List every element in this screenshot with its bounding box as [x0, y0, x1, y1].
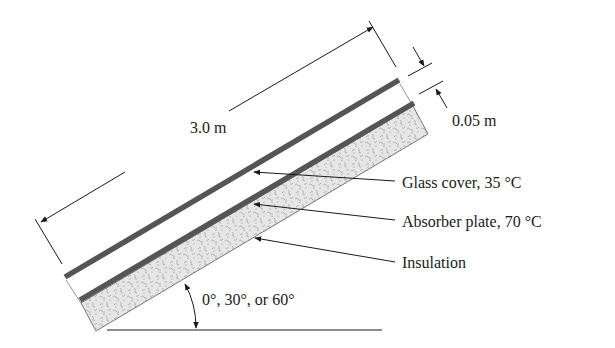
- length-label: 3.0 m: [190, 119, 227, 136]
- tilt-angle-label: 0°, 30°, or 60°: [202, 291, 295, 308]
- glass-cover-label: Glass cover, 35 °C: [402, 174, 522, 191]
- length-dimension-line-upper: [229, 27, 373, 111]
- collector-left-edge: [66, 280, 81, 303]
- insulation-leader: [255, 238, 395, 262]
- length-extension-right: [369, 21, 396, 67]
- solar-collector-diagram: 3.0 m 0.05 m Glass cover, 35 °C Absorber…: [0, 0, 615, 348]
- gap-extension-top: [408, 63, 432, 76]
- absorber-plate: [80, 103, 414, 300]
- absorber-plate-label: Absorber plate, 70 °C: [402, 213, 542, 231]
- length-extension-left: [35, 219, 62, 264]
- gap-arrow-top: [413, 47, 424, 66]
- insulation-label: Insulation: [402, 254, 466, 271]
- length-dimension-line-lower: [41, 172, 125, 222]
- tilt-angle-arc: [185, 284, 196, 328]
- gap-extension-bottom: [419, 81, 443, 94]
- gap-arrow-bottom: [436, 89, 447, 108]
- gap-label: 0.05 m: [452, 112, 497, 129]
